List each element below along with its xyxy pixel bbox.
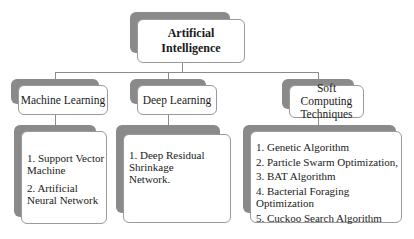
branch-sc-box: Soft Computing Techniques <box>289 85 364 118</box>
list-item: 1. Deep Residual Shrinkage Network. <box>129 149 209 185</box>
list-item: 2. Particle Swarm Optimization, <box>256 156 401 169</box>
root-node-box: Artificial Intelligence <box>137 19 245 63</box>
list-dl-box: 1. Deep Residual Shrinkage Network. <box>123 134 231 223</box>
branch-sc-label: Soft Computing Techniques <box>294 82 359 121</box>
branch-dl-label: Deep Learning <box>143 94 212 107</box>
list-item: 3. BAT Algorithm <box>256 170 401 183</box>
list-sc-box: 1. Genetic Algorithm 2. Particle Swarm O… <box>250 131 402 223</box>
branch-ml-box: Machine Learning <box>18 85 108 115</box>
branch-dl-box: Deep Learning <box>137 85 217 115</box>
list-item: 1. Genetic Algorithm <box>256 141 401 154</box>
connector-horizontal <box>55 72 319 73</box>
list-item: 4. Bacterial Foraging Optimization <box>256 185 401 210</box>
list-ml-box: 1. Support Vector Machine 2. Artificial … <box>21 131 107 224</box>
root-node-label: Artificial Intelligence <box>138 26 244 56</box>
list-item: 2. Artificial Neural Network <box>27 182 106 206</box>
list-item: 5. Cuckoo Search Algorithm <box>256 212 401 225</box>
branch-ml-label: Machine Learning <box>21 94 106 107</box>
list-item: 1. Support Vector Machine <box>27 152 106 176</box>
connector-root-down <box>182 63 183 72</box>
